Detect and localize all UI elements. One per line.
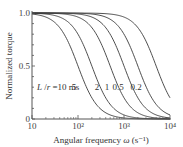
- curve-label: 2: [95, 82, 100, 92]
- axes-group: 00.51.0 1010²10³10⁴: [19, 8, 176, 131]
- curve-1ms: [32, 13, 170, 118]
- curve-label: 1: [105, 82, 110, 92]
- x-tick-label: 10: [28, 121, 38, 131]
- y-axis-title: Normalized torque: [4, 32, 14, 100]
- y-tick-label: 1.0: [19, 8, 31, 18]
- y-tick-label: 0.5: [19, 61, 31, 71]
- curve-10ms: [32, 14, 170, 119]
- curve-label: 5: [72, 82, 77, 92]
- y-ticks: 00.51.0: [19, 8, 35, 124]
- curve-labels: L /r =10 ms5210.50.2: [36, 82, 142, 92]
- curves-group: [32, 13, 170, 119]
- curve-label: 0.5: [112, 82, 124, 92]
- x-tick-label: 10⁴: [164, 121, 176, 131]
- chart: 00.51.0 1010²10³10⁴ L /r =10 ms5210.50.2…: [0, 0, 183, 147]
- curve-2ms: [32, 13, 170, 119]
- curve-0_5ms: [32, 13, 170, 115]
- curve-label: 0.2: [130, 82, 141, 92]
- x-tick-label: 10²: [72, 121, 84, 131]
- x-tick-label: 10³: [118, 121, 130, 131]
- x-axis-title: Angular frequency ω (s⁻¹): [53, 135, 149, 145]
- curve-5ms: [32, 13, 170, 119]
